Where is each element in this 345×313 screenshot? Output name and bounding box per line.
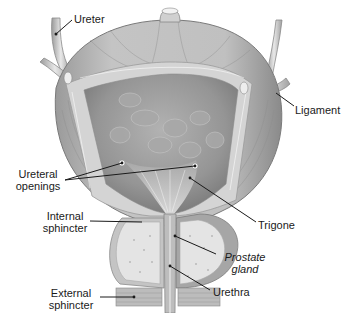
label-internal-sphincter: Internal sphincter (40, 210, 90, 234)
label-ureteral-openings: Ureteral openings (14, 168, 62, 192)
label-urethra: Urethra (213, 286, 250, 298)
label-trigone: Trigone (258, 219, 295, 231)
bladder-illustration (0, 0, 345, 313)
bladder-diagram: Ureter Ligament Ureteral openings Trigon… (0, 0, 345, 313)
label-prostate-gland: Prostate gland (220, 251, 270, 275)
label-ureter: Ureter (74, 13, 105, 25)
label-ligament: Ligament (295, 104, 340, 116)
label-external-sphincter: External sphincter (45, 287, 97, 311)
